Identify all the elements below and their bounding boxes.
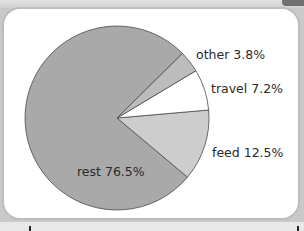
label-travel: travel 7.2% [211,81,283,96]
pie-chart: other 3.8% travel 7.2% feed 12.5% rest 7… [0,0,304,231]
label-rest: rest 76.5% [77,164,145,179]
pie-slices [25,26,209,210]
label-other: other 3.8% [196,47,265,62]
label-feed: feed 12.5% [212,145,284,160]
